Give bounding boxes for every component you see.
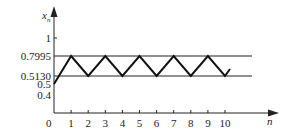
x-tick-label: 3 bbox=[103, 117, 109, 129]
x-tick-label: 0 bbox=[46, 117, 52, 129]
x-tick-label: 1 bbox=[68, 117, 74, 129]
x-tick-label: 7 bbox=[171, 117, 177, 129]
y-axis-arrow-icon bbox=[51, 6, 58, 17]
chart-canvas: 012345678910 10.79950.51300.50.4 xn n bbox=[0, 0, 288, 137]
x-tick-label: 6 bbox=[154, 117, 160, 129]
x-axis-label: n bbox=[267, 115, 273, 127]
y-ticks: 10.79950.51300.50.4 bbox=[21, 32, 57, 101]
x-tick-label: 2 bbox=[85, 117, 91, 129]
x-tick-label: 9 bbox=[205, 117, 211, 129]
x-tick-label: 8 bbox=[188, 117, 194, 129]
y-tick-label: 1 bbox=[46, 32, 52, 44]
x-tick-label: 5 bbox=[137, 117, 143, 129]
x-tick-label: 4 bbox=[120, 117, 126, 129]
y-tick-label: 0.7995 bbox=[21, 50, 52, 62]
x-tick-label: 10 bbox=[220, 117, 232, 129]
y-axis-label: xn bbox=[41, 9, 51, 24]
y-tick-label: 0.4 bbox=[37, 89, 51, 101]
series-line bbox=[54, 56, 230, 84]
